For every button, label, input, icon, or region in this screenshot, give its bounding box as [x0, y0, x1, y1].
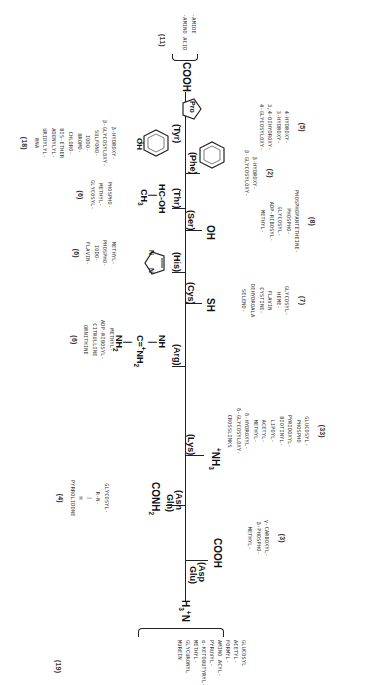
tyr-label: (Tyr) — [172, 124, 182, 143]
thr-side-chain: HC-OH | CH3 — [136, 184, 166, 214]
n-mod: MUREIN — [176, 640, 184, 680]
svg-text:N: N — [148, 268, 155, 273]
n-terminus-count: (19) — [53, 660, 66, 673]
pro-modifications: (5) 4-HYDROXY- 3-HYDROXY- 3,4-DIHYDROXY-… — [257, 104, 306, 151]
his-modifications: METHYL- PHOSPHO- IODO- FLAVIN- (6) — [71, 240, 118, 267]
lys-side-chain: +NH3 — [208, 448, 222, 470]
asn-gln-label: (Asn Gln) — [165, 490, 183, 512]
his-bond — [172, 272, 186, 273]
c-terminus-count: (11) — [157, 34, 170, 47]
diagram-canvas: H3+N GLUCOSYL ACETYL- FORMYL- AMINO ACYL… — [0, 0, 366, 685]
asp-glu-modifications: (3) γ-CARBOXYL- β-PHOSPHO- METHYL- — [246, 520, 286, 557]
n-mod: PYRUVYL- — [208, 640, 216, 680]
thr-modifications: PHOSPHO- METHYL- GLYCOSYL- (6) — [76, 180, 114, 210]
svg-text:N: N — [148, 250, 155, 255]
ser-modifications: (8) PHOSPHOPANTETHEINE- PHOSPHO- GLYCOSY… — [258, 190, 316, 253]
c-terminus-brace — [172, 54, 198, 61]
n-terminus-label: H3+N — [178, 600, 192, 622]
asn-gln-side-chain: CONH2 — [148, 482, 161, 515]
tyr-modifications: β-HYDROXY- β-GLYCOSYLOXY- SULFONO- IODO-… — [19, 120, 118, 167]
c-terminus-modifications: -AMIDE -AMINO ACID — [181, 14, 198, 51]
imidazole-ring-icon: N N — [142, 250, 168, 278]
lys-label: (Lys) — [186, 434, 196, 455]
n-terminus-brace — [138, 628, 224, 637]
arg-bond — [172, 366, 186, 367]
n-mod: FORMYL- — [224, 640, 232, 680]
ser-label: (Ser) — [186, 210, 196, 231]
pro-label: Pro — [189, 101, 196, 113]
thr-label: (Thr) — [172, 188, 182, 209]
asp-glu-side-chain: COOH — [212, 538, 223, 568]
cys-label: (Cys) — [186, 282, 196, 305]
n-mod: α-KETOBUTYRYL- — [200, 640, 208, 680]
asp-glu-bond — [186, 560, 208, 561]
ser-side-chain: OH — [205, 225, 216, 240]
cys-side-chain: SH — [205, 298, 216, 312]
phenyl-ring-icon — [198, 140, 226, 170]
c-mod: -AMIDE — [189, 14, 198, 51]
lys-modifications: (33) GLUCOSYL- PHOSPHO PYRIDOXYL- BIOTIN… — [225, 408, 326, 455]
n-mod: METHYL- — [192, 640, 200, 680]
n-mod: GLYCURONYL — [184, 640, 192, 680]
c-terminus-label: COOH — [181, 62, 192, 92]
arg-modifications: METHYL- ADP-RIBOSYL- CITRULLINE ORNITHIN… — [69, 320, 116, 360]
c-mod: -AMINO ACID — [181, 14, 190, 51]
arg-label: (Arg) — [172, 344, 182, 366]
lys-bond — [186, 455, 204, 456]
n-mod: AMINO ACYL- — [216, 640, 224, 680]
phe-label: (Phe) — [188, 152, 198, 175]
asp-glu-label: (Asp Glu) — [188, 562, 206, 584]
n-mod: ACETYL- — [232, 640, 240, 680]
his-label: (His) — [172, 252, 182, 272]
asn-gln-modifications: GLYCOSYL- R-N- | H PYRROLIDONE (4) — [55, 480, 111, 517]
n-mod: GLUCOSYL — [240, 640, 248, 680]
arg-side-chain: NH | C=+NH2 | NH2 — [111, 335, 166, 367]
phe-modifications: (2) β-HYDROXY- β-GLYCOSYLOXY- — [242, 150, 274, 197]
backbone-line — [185, 92, 186, 602]
tyr-hydroxyl: OH — [135, 138, 144, 150]
cys-modifications: (7) GLYCOSYL- HEME- FLAVIN CYSTINE- DEHY… — [240, 284, 306, 317]
